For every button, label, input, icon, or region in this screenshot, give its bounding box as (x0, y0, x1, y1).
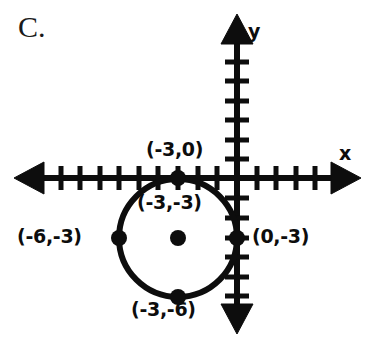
y-axis-bottom-arrowhead (221, 304, 253, 334)
point-label-bottom: (-3,-6) (131, 300, 196, 319)
problem-letter: C. (18, 12, 46, 42)
point-label-top: (-3,0) (146, 140, 203, 159)
point-marker-center (170, 230, 186, 246)
point-marker-top (170, 170, 186, 186)
point-label-right: (0,-3) (252, 227, 309, 246)
coordinate-plane-figure: C. y x (-3,0) (-3,-3) (-6,-3) (0,-3) (-3… (0, 0, 375, 347)
point-marker-left (111, 230, 127, 246)
x-axis-left-arrowhead (14, 162, 44, 194)
x-axis-label: x (339, 144, 351, 163)
y-axis-group (221, 14, 253, 334)
coordinate-plane-svg (0, 0, 375, 347)
point-label-center: (-3,-3) (137, 193, 202, 212)
x-axis-right-arrowhead (331, 162, 361, 194)
point-label-left: (-6,-3) (17, 227, 82, 246)
point-marker-right (229, 230, 245, 246)
y-axis-label: y (248, 22, 260, 41)
